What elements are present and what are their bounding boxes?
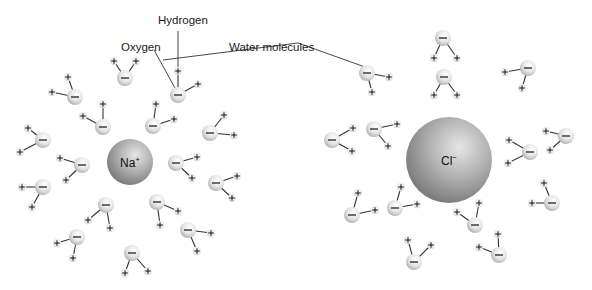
oxygen-atom <box>359 65 375 81</box>
hydrogen-atom <box>542 127 550 135</box>
water-molecule <box>121 245 152 277</box>
oxygen-atom <box>74 157 90 173</box>
water-molecule <box>18 179 51 211</box>
hydrogen-atom <box>504 159 512 167</box>
oxygen-label: Oxygen <box>121 41 161 53</box>
hydrogen-atom <box>453 91 461 99</box>
hydrogen-atom <box>156 221 164 229</box>
hydrogen-atom <box>174 67 182 75</box>
water-molecule <box>149 194 182 229</box>
hydrogen-atom <box>174 207 182 215</box>
hydrogen-atom <box>207 229 215 237</box>
oxygen-atom <box>558 128 574 144</box>
oxygen-atom <box>366 121 382 137</box>
oxygen-atom <box>202 125 218 141</box>
hydrogen-atom <box>540 179 548 187</box>
hydrogen-atom <box>384 142 392 150</box>
hydrogen-atom <box>170 115 178 123</box>
hydrogen-atom <box>354 189 362 197</box>
hydrogen-atom <box>62 176 70 184</box>
hydrogen-atom <box>453 54 461 62</box>
hydrogen-atom <box>501 68 509 76</box>
oxygen-atom <box>520 60 536 76</box>
hydrogen-atom <box>475 199 483 207</box>
water-molecule <box>110 57 140 86</box>
oxygen-atom <box>324 132 340 148</box>
hydrogen-atom <box>152 100 160 108</box>
hydrogen-atom <box>427 241 435 249</box>
hydrogen-atom <box>404 236 412 244</box>
oxygen-atom <box>124 245 140 261</box>
hydrogen-atom <box>28 203 36 211</box>
water-molecule <box>453 199 483 233</box>
hydrogen-atom <box>233 172 241 180</box>
hydrogen-atom <box>194 80 202 88</box>
hydrogen-atom <box>546 146 554 154</box>
water-molecule <box>324 124 357 155</box>
oxygen-atom <box>435 30 451 46</box>
hydrogen-atom <box>144 267 152 275</box>
hydrogen-atom <box>494 230 502 238</box>
leader-lines <box>154 31 365 88</box>
chloride-ion-label: Cl− <box>441 153 457 168</box>
hydrogen-atom <box>348 147 356 155</box>
oxygen-atom <box>69 229 85 245</box>
water-molecule <box>359 65 393 96</box>
water-molecule <box>53 229 85 262</box>
water-molecule <box>501 60 536 92</box>
water-molecule <box>504 136 538 167</box>
hydrogen-atom <box>518 84 526 92</box>
hydrogen-atom <box>24 124 32 132</box>
hydrogen-atom <box>368 88 376 96</box>
hydrogen-atom <box>18 183 26 191</box>
hydrogen-atom <box>53 239 61 247</box>
water-molecule <box>180 222 215 255</box>
water-molecule <box>168 153 201 182</box>
hydrogen-atom <box>16 148 24 156</box>
oxygen-atom <box>491 247 507 263</box>
water-molecule <box>48 73 83 105</box>
water-molecule <box>344 189 379 223</box>
water-molecule <box>145 100 178 134</box>
oxygen-atom <box>95 119 111 135</box>
hydrogen-atom <box>56 154 64 162</box>
hydrogen-atom <box>84 216 92 224</box>
hydrogen-atom <box>413 200 421 208</box>
water-molecule <box>430 30 461 62</box>
hydrogen-atom <box>188 174 196 182</box>
oxygen-atom <box>98 197 114 213</box>
sodium-ion-label: Na+ <box>120 155 140 170</box>
hydrogen-atom <box>99 100 107 108</box>
ions <box>107 117 492 203</box>
oxygen-atom <box>387 200 403 216</box>
oxygen-atom <box>168 155 184 171</box>
water-molecule <box>79 100 111 135</box>
water-molecule <box>56 154 90 184</box>
oxygen-atom <box>35 132 51 148</box>
hydrogen-atom <box>230 131 238 139</box>
oxygen-atom <box>436 69 452 85</box>
hydrogen-atom <box>121 269 129 277</box>
hydrogen-atom <box>228 194 236 202</box>
hydrogen-label: Hydrogen <box>158 14 208 26</box>
hydrogen-atom <box>220 111 228 119</box>
hydrogen-atom <box>193 247 201 255</box>
water-molecule <box>387 183 421 216</box>
water-molecule <box>16 124 51 156</box>
oxygen-atom <box>149 194 165 210</box>
hydrogen-atom <box>371 206 379 214</box>
oxygen-leader-line <box>154 50 175 88</box>
hydrogen-atom <box>528 199 536 207</box>
water-molecule <box>404 236 435 270</box>
hydrogen-atom <box>79 112 87 120</box>
oxygen-atom <box>344 207 360 223</box>
hydrogen-atom <box>385 73 393 81</box>
water-molecule <box>366 120 401 150</box>
hydrogen-atom <box>349 124 357 132</box>
hydrogen-atom <box>64 73 72 81</box>
water-molecule <box>528 179 560 211</box>
hydrogen-atom <box>69 254 77 262</box>
hydrogen-atom <box>110 57 118 65</box>
water-molecules-label: Water molecules <box>229 41 314 53</box>
water-molecule <box>202 111 238 141</box>
